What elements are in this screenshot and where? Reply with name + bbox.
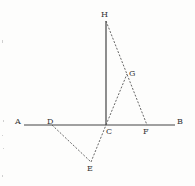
- dashed-line-DE: [52, 125, 91, 162]
- geometry-diagram: A B C D E F G H: [0, 0, 195, 186]
- dashed-line-CG: [106, 74, 127, 125]
- dashed-line-EC: [91, 125, 106, 162]
- point-label-G: G: [129, 69, 135, 78]
- diagram-canvas: A B C D E F G H: [0, 0, 195, 186]
- point-label-C: C: [106, 127, 112, 136]
- point-label-F: F: [143, 127, 149, 136]
- point-label-A: A: [14, 117, 21, 126]
- point-label-E: E: [87, 164, 93, 173]
- dashed-line-HF: [106, 21, 147, 125]
- point-label-B: B: [177, 117, 183, 126]
- point-label-D: D: [47, 117, 53, 126]
- point-label-H: H: [101, 10, 108, 19]
- scan-artifacts: [2, 40, 4, 177]
